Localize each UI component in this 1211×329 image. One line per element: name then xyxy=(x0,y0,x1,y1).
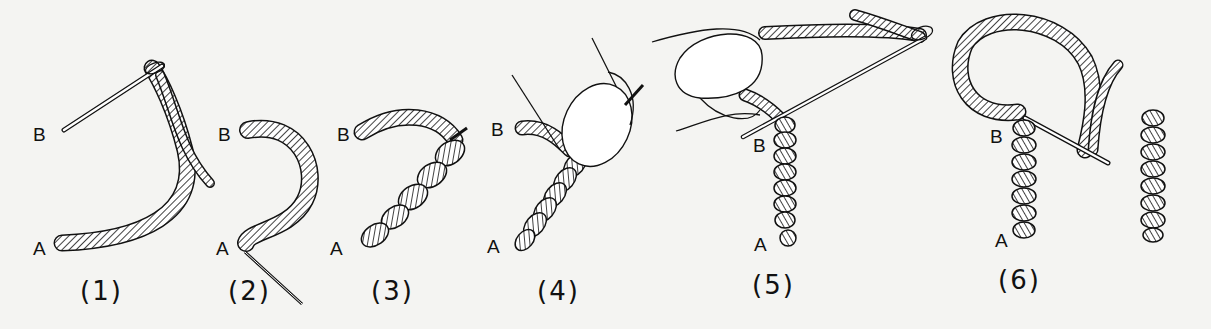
step-6-point-a: A xyxy=(995,230,1008,252)
step-5-point-b: B xyxy=(753,135,766,157)
step-5-drawing xyxy=(652,15,934,246)
step-3-point-a: A xyxy=(330,238,343,260)
step-4-caption: (4) xyxy=(537,276,580,306)
step-3-point-b: B xyxy=(337,124,350,146)
step-4-point-b: B xyxy=(491,119,504,141)
step-6-caption: (6) xyxy=(998,265,1041,295)
step-1-point-a: A xyxy=(33,238,46,260)
step-5-point-a: A xyxy=(754,234,767,256)
step-3-caption: (3) xyxy=(371,276,414,306)
step-4-point-a: A xyxy=(487,236,500,258)
step-5-caption: (5) xyxy=(752,270,795,300)
step-1-caption: (1) xyxy=(80,276,123,306)
step-4-drawing xyxy=(511,38,645,254)
step-2-caption: (2) xyxy=(228,276,271,306)
step-6-point-b: B xyxy=(990,126,1003,148)
step-1-point-b: B xyxy=(33,124,46,146)
step-3-drawing xyxy=(357,117,469,252)
step-2-point-a: A xyxy=(216,238,229,260)
step-2-point-b: B xyxy=(218,124,231,146)
step-1-drawing xyxy=(62,60,210,243)
